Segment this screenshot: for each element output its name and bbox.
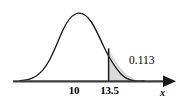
x-axis-name-label: x — [160, 88, 165, 98]
x-axis-arrow-icon — [163, 76, 176, 87]
x-tick-label-13-5: 13.5 — [94, 85, 125, 96]
x-tick-label-10: 10 — [62, 85, 86, 96]
normal-curve-figure: 10 13.5 0.113 x — [0, 0, 187, 104]
shaded-area-probability-label: 0.113 — [129, 54, 154, 66]
normal-curve-path — [20, 13, 144, 81]
